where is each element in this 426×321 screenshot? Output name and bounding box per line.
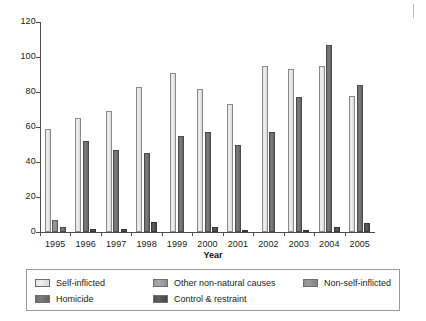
x-tick-mark — [284, 232, 285, 236]
x-tick-mark — [253, 232, 254, 236]
bar-chart: 020406080100120 199519961997199819992000… — [0, 0, 426, 321]
x-tick-label: 1998 — [131, 239, 161, 249]
x-tick-label: 2003 — [284, 239, 314, 249]
x-tick-mark — [40, 232, 41, 236]
x-tick-label: 1996 — [70, 239, 100, 249]
legend-item[interactable]: Control & restraint — [153, 294, 303, 304]
bar — [197, 89, 203, 233]
legend-label: Control & restraint — [174, 294, 247, 304]
legend-item[interactable]: Homicide — [35, 294, 153, 304]
bar — [151, 222, 157, 233]
legend-item[interactable]: Self-inflicted — [35, 278, 153, 288]
y-tick-label: 20 — [0, 192, 36, 201]
bar — [90, 229, 96, 233]
x-tick-mark — [345, 232, 346, 236]
legend-label: Homicide — [56, 294, 94, 304]
bar — [205, 132, 211, 232]
x-tick-mark — [192, 232, 193, 236]
bar — [288, 69, 294, 232]
legend-row: Self-inflictedOther non-natural causesNo… — [35, 275, 391, 290]
x-tick-mark — [101, 232, 102, 236]
bar — [144, 153, 150, 232]
bar — [83, 141, 89, 232]
bar — [136, 87, 142, 232]
legend-swatch-icon — [35, 279, 50, 287]
page-edge-mark — [413, 4, 414, 18]
x-tick-mark — [314, 232, 315, 236]
y-tick-label: 0 — [0, 227, 36, 236]
bar — [262, 66, 268, 232]
bar — [296, 97, 302, 232]
bar — [60, 227, 66, 232]
bar — [357, 85, 363, 232]
bar — [212, 227, 218, 232]
legend-swatch-icon — [153, 279, 168, 287]
bar — [170, 73, 176, 232]
bar — [303, 230, 309, 232]
y-tick-label: 80 — [0, 87, 36, 96]
x-tick-mark — [131, 232, 132, 236]
chart-legend: Self-inflictedOther non-natural causesNo… — [26, 269, 400, 311]
x-tick-mark — [223, 232, 224, 236]
legend-swatch-icon — [153, 295, 168, 303]
x-axis — [40, 232, 375, 233]
x-tick-label: 1999 — [162, 239, 192, 249]
legend-label: Non-self-inflicted — [324, 278, 391, 288]
x-tick-label: 1995 — [40, 239, 70, 249]
bar — [75, 118, 81, 232]
legend-label: Other non-natural causes — [174, 278, 276, 288]
bar — [113, 150, 119, 232]
bar — [242, 230, 248, 232]
bar — [326, 45, 332, 232]
x-tick-mark — [162, 232, 163, 236]
bar — [319, 66, 325, 232]
legend-item[interactable]: Other non-natural causes — [153, 278, 303, 288]
bar — [121, 229, 127, 233]
bar — [52, 220, 58, 232]
x-tick-label: 2002 — [253, 239, 283, 249]
y-tick-label: 40 — [0, 157, 36, 166]
x-tick-label: 2000 — [192, 239, 222, 249]
legend-label: Self-inflicted — [56, 278, 105, 288]
x-axis-title: Year — [0, 250, 426, 260]
bar — [227, 104, 233, 232]
bar — [106, 111, 112, 232]
bar — [364, 223, 370, 232]
legend-item[interactable]: Non-self-inflicted — [303, 278, 391, 288]
legend-swatch-icon — [35, 295, 50, 303]
x-tick-label: 2005 — [345, 239, 375, 249]
y-tick-label: 60 — [0, 122, 36, 131]
x-tick-label: 2004 — [314, 239, 344, 249]
bar — [269, 132, 275, 232]
legend-swatch-icon — [303, 279, 318, 287]
bar — [235, 145, 241, 233]
plot-area: 020406080100120 199519961997199819992000… — [0, 0, 426, 258]
bar — [45, 129, 51, 232]
x-tick-label: 1997 — [101, 239, 131, 249]
bar — [334, 227, 340, 232]
y-tick-label: 100 — [0, 52, 36, 61]
bar — [349, 96, 355, 233]
x-tick-mark — [70, 232, 71, 236]
bar — [178, 136, 184, 232]
y-tick-label: 120 — [0, 17, 36, 26]
legend-row: HomicideControl & restraint — [35, 291, 391, 306]
bars-layer — [40, 22, 375, 232]
x-tick-label: 2001 — [223, 239, 253, 249]
